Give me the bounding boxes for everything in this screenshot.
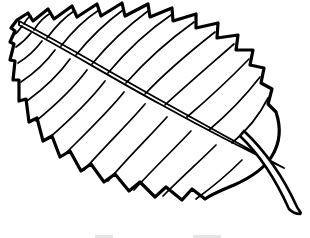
leaf-illustration: Leaf Line Drawing Outline drawing of a s… <box>0 0 310 238</box>
bottom-edge-smudge-right <box>193 235 221 238</box>
artwork-canvas: Leaf Line Drawing Outline drawing of a s… <box>0 0 310 238</box>
bottom-edge-smudge-left <box>95 235 113 238</box>
